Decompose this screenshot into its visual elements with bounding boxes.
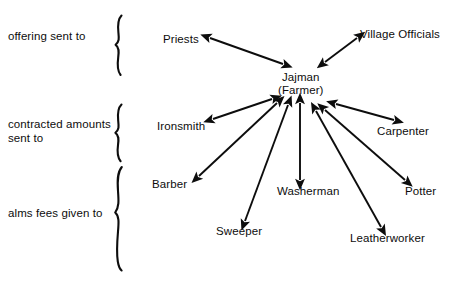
node-priests: Priests: [163, 33, 199, 46]
group-label-alms: alms fees given to: [8, 207, 103, 221]
group-label-contracted-line2: sent to: [8, 132, 111, 146]
group-label-offering-text: offering sent to: [8, 30, 85, 42]
node-jajman: Jajman (Farmer): [278, 71, 324, 96]
group-label-alms-text: alms fees given to: [8, 207, 103, 219]
node-potter: Potter: [405, 185, 436, 198]
connection-hub-sweeper: [245, 105, 288, 221]
group-label-offering: offering sent to: [8, 30, 85, 44]
node-barber: Barber: [152, 178, 187, 191]
jajmani-system-diagram: offering sent to contracted amounts sent…: [0, 0, 451, 281]
node-jajman-role: (Farmer): [278, 84, 324, 97]
node-sweeper: Sweeper: [216, 225, 262, 238]
node-village-officials: Village Officials: [360, 28, 440, 41]
node-jajman-name: Jajman: [278, 71, 324, 84]
node-ironsmith: Ironsmith: [157, 120, 205, 133]
connection-hub-carpenter: [336, 104, 394, 120]
node-leatherworker: Leatherworker: [350, 232, 425, 245]
connection-hub-leatherworker: [316, 111, 381, 227]
node-carpenter: Carpenter: [377, 125, 429, 138]
group-label-contracted-line1: contracted amounts: [8, 118, 111, 132]
connection-hub-village-officials: [325, 38, 357, 62]
node-washerman: Washerman: [277, 185, 339, 198]
group-label-contracted: contracted amounts sent to: [8, 118, 111, 145]
connection-hub-priests: [210, 38, 283, 64]
